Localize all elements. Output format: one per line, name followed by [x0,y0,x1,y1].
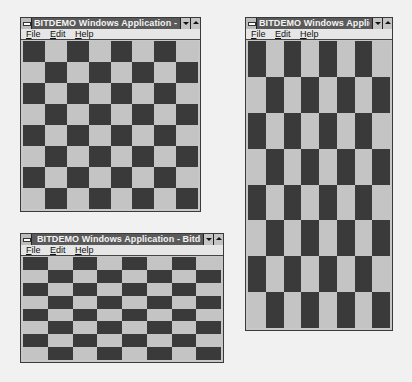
dark-square [355,256,373,292]
minimize-icon[interactable] [180,18,190,29]
light-square [67,146,89,167]
light-square [97,309,122,322]
light-square [154,62,176,83]
light-square [122,347,147,360]
bitdemo-window-top-left[interactable]: BITDEMO Windows Application - Bitd File … [20,17,201,212]
menu-bar: File Edit Help [246,29,392,40]
dark-square [196,270,221,283]
light-square [48,283,73,296]
window-title: BITDEMO Windows Application - Bitd [34,18,178,29]
bitdemo-window-tall-right[interactable]: BITDEMO Windows Applicatio File Edit Hel… [245,17,393,331]
dark-square [45,62,67,83]
minimize-icon[interactable] [203,234,213,245]
dark-square [45,188,67,209]
light-square [284,220,302,256]
light-square [48,257,73,270]
dark-square [372,292,390,328]
light-square [147,334,172,347]
menu-file[interactable]: File [26,29,41,39]
light-square [319,220,337,256]
light-square [132,167,154,188]
dark-square [319,256,337,292]
light-square [45,41,67,62]
light-square [89,83,111,104]
dark-square [147,270,172,283]
dark-square [132,62,154,83]
maximize-icon[interactable] [190,18,200,29]
dark-square [45,146,67,167]
dark-square [284,113,302,149]
checkerboard-client[interactable] [23,257,221,360]
dark-square [176,146,198,167]
light-square [48,309,73,322]
light-square [23,62,45,83]
dark-square [176,104,198,125]
menu-edit[interactable]: Edit [275,29,291,39]
dark-square [248,256,266,292]
maximize-icon[interactable] [213,234,223,245]
dark-square [248,41,266,77]
dark-square [266,292,284,328]
system-menu-icon[interactable] [21,234,32,245]
dark-square [73,283,98,296]
maximize-icon[interactable] [382,18,392,29]
menu-edit[interactable]: Edit [50,245,66,255]
minimize-icon[interactable] [372,18,382,29]
dark-square [337,149,355,185]
light-square [23,296,48,309]
title-bar[interactable]: BITDEMO Windows Application - Bitd [21,18,200,29]
menu-file[interactable]: File [251,29,266,39]
dark-square [23,41,45,62]
menu-bar: File Edit Help [21,29,200,40]
dark-square [45,104,67,125]
menu-file[interactable]: File [26,245,41,255]
menu-edit[interactable]: Edit [50,29,66,39]
light-square [45,125,67,146]
dark-square [172,334,197,347]
checkerboard-client[interactable] [23,41,198,209]
light-square [284,77,302,113]
light-square [48,334,73,347]
light-square [248,77,266,113]
dark-square [248,113,266,149]
menu-help[interactable]: Help [300,29,319,39]
system-menu-icon[interactable] [21,18,32,29]
dark-square [23,83,45,104]
light-square [337,41,355,77]
dark-square [301,220,319,256]
light-square [132,41,154,62]
menu-help[interactable]: Help [75,245,94,255]
dark-square [355,113,373,149]
light-square [196,334,221,347]
title-bar[interactable]: BITDEMO Windows Applicatio [246,18,392,29]
light-square [337,113,355,149]
light-square [23,270,48,283]
title-bar[interactable]: BITDEMO Windows Application - Bitdem [21,234,223,245]
light-square [154,188,176,209]
dark-square [301,77,319,113]
dark-square [154,41,176,62]
light-square [284,149,302,185]
dark-square [23,334,48,347]
light-square [111,188,133,209]
light-square [111,104,133,125]
system-menu-icon[interactable] [246,18,257,29]
bitdemo-window-wide-bottom[interactable]: BITDEMO Windows Application - Bitdem Fil… [20,233,224,363]
dark-square [97,347,122,360]
light-square [196,309,221,322]
light-square [372,185,390,221]
light-square [266,185,284,221]
dark-square [67,83,89,104]
light-square [355,220,373,256]
checkerboard-client[interactable] [248,41,390,328]
menu-help[interactable]: Help [75,29,94,39]
dark-square [372,220,390,256]
light-square [73,270,98,283]
light-square [89,167,111,188]
dark-square [372,77,390,113]
light-square [248,149,266,185]
dark-square [337,77,355,113]
light-square [23,146,45,167]
light-square [111,62,133,83]
light-square [23,104,45,125]
